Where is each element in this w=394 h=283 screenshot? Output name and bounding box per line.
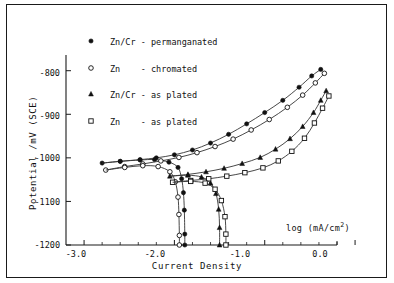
y-axis-title: Potential /mV (SCE) [28, 96, 38, 210]
data-point [190, 148, 194, 152]
x-axis-unit-note: log (mA/cm2) [286, 221, 350, 233]
data-point [177, 212, 182, 217]
data-point [281, 98, 285, 102]
figure-container: -800 -900 -1000 -1100 -1200 -3.0 -2.0 -1… [0, 0, 394, 283]
data-point [302, 136, 306, 140]
data-point [213, 187, 217, 191]
data-point [225, 174, 229, 178]
y-tick-label: -800 [20, 68, 60, 78]
data-point [122, 165, 127, 170]
data-point [140, 163, 145, 168]
data-point [118, 159, 122, 163]
data-point [213, 144, 218, 149]
x-axis-title: Current Density [0, 261, 394, 271]
data-point [176, 165, 180, 169]
data-point [224, 243, 228, 247]
data-point [324, 88, 329, 93]
curve-line-2-0 [170, 91, 326, 176]
legend-label-3: Zn - as plated [110, 117, 197, 127]
x-tick-label: -2.0 [133, 249, 177, 259]
data-point [273, 147, 278, 152]
data-point [261, 166, 265, 170]
data-point [217, 225, 222, 230]
legend-marker-1 [89, 66, 94, 71]
data-point [267, 117, 272, 122]
data-point [263, 110, 267, 114]
data-point [177, 243, 182, 248]
y-tick-label: -1000 [20, 153, 60, 163]
data-point [249, 128, 254, 133]
data-point [152, 158, 156, 162]
data-point [319, 67, 323, 71]
data-point [183, 243, 187, 247]
data-point [216, 207, 221, 212]
data-point [312, 121, 316, 125]
data-point [320, 106, 324, 110]
data-point [223, 214, 227, 218]
x-axis-unit-tail: ) [344, 223, 349, 233]
data-point [203, 181, 207, 185]
legend-label-1: Zn - chromated [110, 64, 197, 74]
data-point [182, 208, 186, 212]
x-tick-label: 0.0 [298, 249, 342, 259]
data-point [313, 81, 318, 86]
y-tick-label: -900 [20, 111, 60, 121]
data-point [156, 164, 161, 169]
data-point [195, 150, 200, 155]
x-tick-label: -1.0 [218, 249, 262, 259]
data-point [176, 195, 181, 200]
x-axis-unit-base: log (mA/cm [286, 223, 340, 233]
legend-marker-2 [89, 91, 94, 96]
legend-label-0: Zn/Cr - permanganated [110, 37, 217, 47]
data-point [318, 98, 323, 103]
data-point [181, 191, 185, 195]
data-point [159, 159, 164, 164]
data-point [297, 85, 301, 89]
data-point [300, 93, 305, 98]
data-point [224, 232, 228, 236]
data-point [322, 71, 327, 76]
data-point [188, 179, 192, 183]
data-point [285, 105, 290, 110]
data-point [227, 132, 231, 136]
data-point [290, 149, 294, 153]
data-point [245, 122, 249, 126]
data-point [172, 153, 176, 157]
legend-marker-3 [89, 119, 93, 123]
data-point [276, 159, 280, 163]
data-point [183, 232, 187, 236]
x-tick-label: -3.0 [54, 249, 98, 259]
legend-markers [89, 39, 94, 123]
data-point [243, 170, 247, 174]
data-point [327, 94, 331, 98]
legend-marker-0 [89, 39, 93, 43]
data-point [231, 137, 236, 142]
data-point [219, 198, 223, 202]
legend-label-2: Zn/Cr - as plated [110, 90, 197, 100]
y-tick-label: -1100 [20, 197, 60, 207]
data-point [180, 177, 184, 181]
data-point [208, 141, 212, 145]
data-point [310, 74, 314, 78]
data-point [177, 233, 182, 238]
data-point [177, 155, 182, 160]
data-point [207, 177, 211, 181]
data-point [167, 160, 171, 164]
